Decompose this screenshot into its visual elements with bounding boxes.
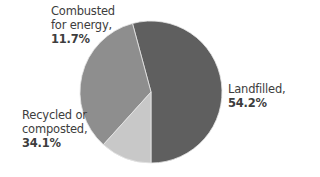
label-landfilled: Landfilled, 54.2% — [228, 82, 286, 110]
label-combusted-line2: for energy, — [51, 18, 115, 32]
label-recycled-line2: composted, — [22, 122, 87, 136]
label-recycled: Recycled or composted, 34.1% — [22, 108, 87, 150]
label-recycled-line1: Recycled or — [22, 108, 87, 122]
label-recycled-value: 34.1% — [22, 136, 87, 150]
label-landfilled-value: 54.2% — [228, 96, 286, 110]
label-combusted-line1: Combusted — [51, 4, 115, 18]
label-combusted-value: 11.7% — [51, 32, 115, 46]
label-landfilled-line1: Landfilled, — [228, 82, 286, 96]
label-combusted: Combusted for energy, 11.7% — [51, 4, 115, 46]
